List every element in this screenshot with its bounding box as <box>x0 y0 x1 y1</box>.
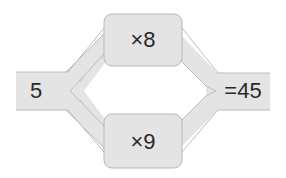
bottom-operation-label: ×9 <box>104 131 182 153</box>
output-value: =45 <box>216 80 270 102</box>
top-operation-label: ×8 <box>104 29 182 51</box>
input-value: 5 <box>16 80 56 102</box>
